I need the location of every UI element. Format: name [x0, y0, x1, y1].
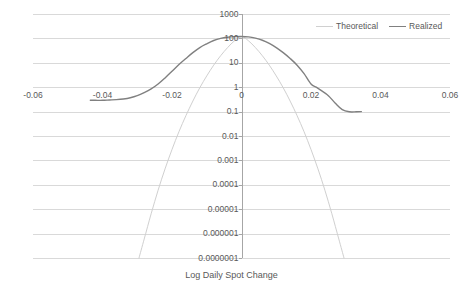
x-tick-label: 0.06	[442, 91, 459, 100]
y-tick-label: 10	[0, 58, 242, 67]
y-tick-label: 100	[0, 34, 242, 43]
legend-item-realized[interactable]: Realized	[389, 21, 442, 31]
y-tick-label: 0.1	[0, 107, 242, 116]
y-tick-label: 0.001	[0, 156, 242, 165]
chart-container: 10001001010.10.010.0010.00010.000010.000…	[0, 0, 463, 290]
chart-legend: Theoretical Realized	[316, 21, 442, 31]
y-tick-label: 0.01	[0, 132, 242, 141]
x-axis-title: Log Daily Spot Change	[0, 270, 463, 280]
y-tick-label: 0.00001	[0, 205, 242, 214]
series-line-realized	[90, 36, 361, 112]
x-tick-label: 0.02	[303, 91, 320, 100]
x-tick-label: -0.06	[23, 91, 42, 100]
x-axis-title-label: Log Daily Spot Change	[185, 270, 278, 280]
y-tick-label: 0.0001	[0, 180, 242, 189]
legend-swatch-theoretical-icon	[316, 26, 333, 27]
x-tick-label: 0.04	[372, 91, 389, 100]
legend-label-theoretical: Theoretical	[336, 21, 378, 31]
series-line-theoretical	[139, 37, 344, 258]
legend-item-theoretical[interactable]: Theoretical	[316, 21, 378, 31]
x-tick-label: -0.02	[162, 91, 181, 100]
legend-label-realized: Realized	[409, 21, 442, 31]
legend-swatch-realized-icon	[389, 26, 406, 27]
x-tick-label: 0	[239, 91, 244, 100]
x-tick-label: -0.04	[93, 91, 112, 100]
y-tick-label: 1000	[0, 10, 242, 19]
y-tick-label: 0.000001	[0, 229, 242, 238]
y-tick-label: 0.0000001	[0, 254, 242, 263]
